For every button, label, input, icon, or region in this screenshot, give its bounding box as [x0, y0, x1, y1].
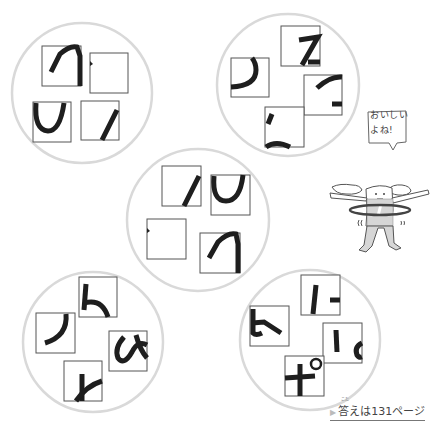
- piece-tile: [231, 58, 269, 97]
- triangle-marker-icon: ▶: [330, 408, 336, 417]
- speech-line-2: よね!: [370, 123, 408, 138]
- piece-tile: [265, 107, 304, 147]
- piece-tile: [90, 53, 128, 93]
- speech-line-1: おいしい: [370, 108, 408, 123]
- puzzle-circle-1: [12, 23, 152, 163]
- puzzle-circle-2: [217, 14, 359, 156]
- speech-bubble-text: おいしい よね!: [370, 108, 408, 138]
- puzzle-canvas: [0, 0, 437, 431]
- puzzle-circle-5: [240, 270, 380, 410]
- character-illustration: [330, 184, 429, 252]
- piece-tile: [147, 219, 186, 259]
- puzzle-circle-4: [23, 272, 163, 412]
- answer-label: 答えは131ページ: [338, 405, 425, 418]
- answer-reference: ▶答えは131ページ: [330, 402, 425, 421]
- piece-tile: [301, 275, 340, 315]
- puzzle-circle-3: [127, 149, 269, 291]
- piece-tile: [36, 313, 75, 353]
